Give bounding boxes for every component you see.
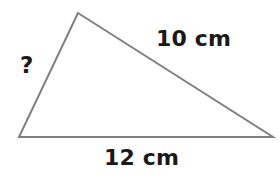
label-side-10cm: 10 cm [156, 28, 231, 50]
triangle-outline [19, 13, 273, 137]
label-side-12cm: 12 cm [104, 147, 179, 169]
geometry-figure: 10 cm 12 cm ? [0, 0, 280, 180]
label-side-unknown: ? [20, 54, 34, 77]
